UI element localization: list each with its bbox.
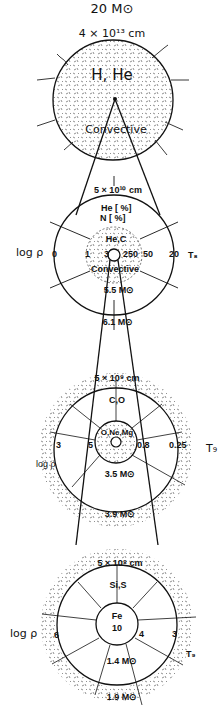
stage4-scale-2: 3: [172, 630, 177, 639]
stage4-scale-1: 4: [139, 630, 144, 639]
stage3-core-mass: 3.5 M⊙: [105, 470, 136, 479]
stage2-core-composition: He,C: [106, 235, 127, 244]
stage3-scale-1: 5: [88, 441, 93, 450]
stage2-right-axis: T₈: [188, 251, 198, 260]
stage2-scale-1: 1: [85, 250, 90, 259]
stage2-scale-3: 250: [123, 250, 138, 259]
stage4-core-value: 10: [112, 624, 122, 633]
stage2-radius: 5 × 10¹⁰ cm: [94, 186, 142, 195]
stage2-scale-2: 3: [104, 250, 109, 259]
stage4-right-axis: T₉: [186, 650, 196, 659]
envelope-note: Convective: [85, 124, 146, 135]
stage3-right-axis: T₉: [206, 443, 217, 454]
envelope-composition: H, He: [91, 68, 132, 83]
stage3-radius: 5 × 10⁹ cm: [94, 374, 139, 383]
stage3-shell-mass: 3.9 M⊙: [105, 510, 136, 519]
stage2-core-note: Convective: [91, 265, 139, 274]
stage2-shell-mass: 6.1 M⊙: [103, 318, 134, 327]
stage2-scale-5: 20: [169, 250, 179, 259]
stage4-core-mass: 1.4 M⊙: [107, 657, 138, 666]
stage4-scale-0: 6: [54, 631, 59, 640]
stage4-shell-mass: 1.9 M⊙: [107, 693, 138, 702]
stage2-core-mass: 5.5 M⊙: [104, 286, 135, 295]
stage3-scale-0: 3: [56, 441, 61, 450]
stage3-core-composition: O,Ne,Mg: [101, 429, 133, 437]
stage4-shell-composition: Si,S: [109, 581, 126, 590]
envelope-radius: 4 × 10¹³ cm: [79, 28, 145, 39]
stage3-left-axis: log ρ: [36, 460, 56, 469]
stage4-core-composition: Fe: [112, 612, 123, 621]
he-burning-stage: [50, 176, 178, 545]
title-mass: 20 M⊙: [91, 2, 134, 15]
stage3-scale-3: 0.25: [169, 441, 187, 450]
stage2-scale-0: 0: [52, 250, 57, 259]
stage2-shell-he: He [ %]: [101, 204, 132, 213]
stage4-left-axis: log ρ: [10, 628, 37, 639]
stage3-shell-composition: C,O: [109, 396, 125, 405]
stage2-shell-n: N [ %]: [100, 214, 126, 223]
stage3-scale-2: 0.8: [137, 441, 150, 450]
stage4-radius: 5 × 10⁸ cm: [97, 559, 142, 568]
stage2-scale-4: 50: [143, 250, 153, 259]
stage2-left-axis: log ρ: [16, 247, 43, 258]
